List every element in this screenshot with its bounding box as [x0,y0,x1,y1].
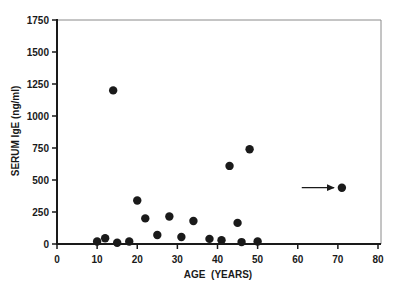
data-point [205,235,213,243]
x-tick-label: 20 [132,254,144,265]
y-tick-label: 1750 [27,15,50,26]
data-points [93,86,346,247]
y-tick-label: 1500 [27,47,50,58]
x-tick-label: 50 [252,254,264,265]
x-tick-label: 30 [172,254,184,265]
scatter-chart: 02505007501000125015001750 0102030405060… [0,0,397,296]
data-point [217,236,225,244]
data-point [177,233,185,241]
y-axis-ticks: 02505007501000125015001750 [27,15,57,250]
data-point [189,217,197,225]
data-point [141,214,149,222]
x-tick-label: 0 [54,254,60,265]
data-point [113,239,121,247]
x-axis-ticks: 01020304050607080 [54,244,384,265]
y-tick-label: 1000 [27,111,50,122]
x-tick-label: 70 [332,254,344,265]
data-point [93,237,101,245]
y-axis-title: SERUM IgE (ng/ml) [10,86,21,177]
data-point [233,219,241,227]
data-point [153,231,161,239]
data-point [245,145,253,153]
y-tick-label: 500 [32,175,49,186]
y-tick-label: 250 [32,207,49,218]
data-point [225,162,233,170]
data-point [109,86,117,94]
data-point [338,183,346,191]
x-tick-label: 80 [372,254,384,265]
y-tick-label: 0 [43,239,49,250]
plot-frame [56,19,381,245]
data-point [237,238,245,246]
x-axis-title: AGE (YEARS) [184,269,252,280]
x-tick-label: 60 [292,254,304,265]
data-point [165,212,173,220]
y-tick-label: 1250 [27,79,50,90]
data-point [253,237,261,245]
x-tick-label: 10 [92,254,104,265]
data-point [101,234,109,242]
data-point [125,237,133,245]
data-point [133,196,141,204]
y-tick-label: 750 [32,143,49,154]
x-tick-label: 40 [212,254,224,265]
